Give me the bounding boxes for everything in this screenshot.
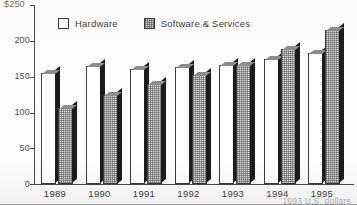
bar-1993-software-services [236, 65, 251, 184]
bar-1989-hardware [41, 73, 56, 184]
y-tick-250 [30, 5, 35, 6]
bar-1994-software-services [281, 49, 296, 184]
bar-side-face [250, 58, 255, 183]
legend-swatch-hardware-icon [58, 18, 69, 29]
bar-1991-software-services [147, 84, 162, 184]
bar-chart: $250 200 150 100 50 0 198919901991199219… [0, 0, 357, 205]
bar-1994-hardware [264, 59, 279, 184]
y-axis-label-200: 200 [2, 36, 30, 45]
y-axis-line [34, 5, 35, 185]
y-axis-label-100: 100 [2, 108, 30, 117]
bar-side-face [72, 101, 77, 183]
chart-footnote: 1993 U.S. dollars [282, 196, 351, 205]
bar-1991-hardware [130, 69, 145, 184]
legend-entry-software-services: Software & Services [144, 18, 250, 29]
bar-side-face [339, 23, 344, 183]
bar-1993-hardware [219, 65, 234, 184]
y-axis-label-0: 0 [2, 180, 30, 189]
legend-swatch-software-services-icon [144, 18, 155, 29]
bar-1990-software-services [103, 95, 118, 185]
bar-1992-hardware [175, 67, 190, 184]
bar-side-face [117, 88, 122, 183]
y-tick-0 [30, 184, 35, 185]
y-axis-label-150: 150 [2, 72, 30, 81]
legend: Hardware Software & Services [58, 18, 250, 29]
bar-side-face [161, 78, 166, 183]
legend-label-hardware: Hardware [75, 18, 118, 29]
y-axis-label-50: 50 [2, 144, 30, 153]
x-axis-label-1992: 1992 [167, 188, 211, 199]
y-tick-100 [30, 113, 35, 114]
legend-label-software-services: Software & Services [161, 18, 250, 29]
bar-1995-hardware [308, 53, 323, 184]
x-axis-label-1993: 1993 [211, 188, 255, 199]
y-tick-200 [30, 41, 35, 42]
bar-1995-software-services [325, 30, 340, 184]
y-tick-50 [30, 148, 35, 149]
legend-entry-hardware: Hardware [58, 18, 118, 29]
bar-1992-software-services [192, 75, 207, 184]
bar-side-face [206, 68, 211, 183]
x-axis-line [34, 184, 354, 185]
x-axis-label-1989: 1989 [33, 188, 77, 199]
bar-1990-hardware [86, 66, 101, 184]
y-tick-150 [30, 77, 35, 78]
plot-area: 200 150 100 50 0 19891990199119921993199… [0, 0, 357, 205]
bar-1989-software-services [58, 108, 73, 184]
x-axis-label-1990: 1990 [78, 188, 122, 199]
x-axis-label-1991: 1991 [122, 188, 166, 199]
bar-side-face [295, 42, 300, 183]
